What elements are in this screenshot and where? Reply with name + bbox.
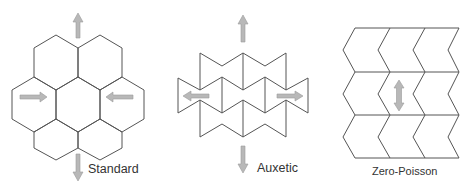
arrow-up-icon bbox=[238, 15, 248, 42]
standard-arrows bbox=[20, 13, 133, 181]
label-standard: Standard bbox=[88, 162, 139, 176]
arrow-down-icon bbox=[238, 146, 248, 173]
arrow-right-icon bbox=[277, 91, 303, 101]
poisson-ratio-diagram: Standard Auxetic bbox=[0, 0, 473, 187]
label-zero-poisson: Zero-Poisson bbox=[372, 165, 437, 177]
double-arrow-vertical-icon bbox=[394, 80, 404, 111]
arrow-left-icon bbox=[106, 92, 133, 102]
auxetic-arrows bbox=[183, 15, 303, 173]
arrow-down-icon bbox=[73, 154, 83, 181]
arrow-up-icon bbox=[73, 13, 83, 38]
zero-poisson-arrows bbox=[394, 80, 404, 111]
arrow-right-icon bbox=[20, 92, 47, 102]
arrow-left-icon bbox=[183, 91, 209, 101]
label-auxetic: Auxetic bbox=[257, 161, 298, 175]
